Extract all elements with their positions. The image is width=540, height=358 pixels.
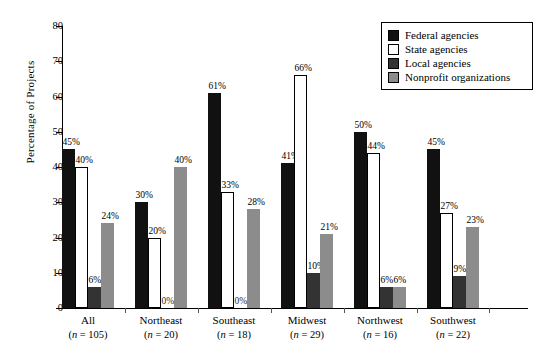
bar[interactable]: [281, 163, 294, 308]
bar[interactable]: [440, 213, 453, 308]
x-group-separator-tick: [417, 308, 418, 313]
legend: Federal agenciesState agenciesLocal agen…: [381, 22, 533, 90]
legend-item-label: Local agencies: [405, 57, 471, 69]
bar-value-label: 45%: [428, 138, 445, 148]
legend-swatch-icon: [388, 58, 399, 69]
bar[interactable]: [208, 93, 221, 308]
bar-value-label: 6%: [381, 276, 394, 286]
bar-group: 45%40%6%24%: [62, 26, 114, 308]
bar[interactable]: [380, 287, 393, 308]
bar-value-label: 66%: [295, 64, 312, 74]
x-group-separator-tick: [271, 308, 272, 313]
legend-item-label: Federal agencies: [405, 29, 479, 41]
legend-item-federal[interactable]: Federal agencies: [388, 28, 526, 42]
bar[interactable]: [466, 227, 479, 308]
bar-value-label: 20%: [149, 227, 166, 237]
y-tick: 10: [0, 268, 63, 278]
x-group-name: Northeast: [140, 314, 183, 326]
bar-value-label: 50%: [355, 121, 372, 131]
bar-value-label: 44%: [368, 142, 385, 152]
bar-value-label: 45%: [63, 138, 80, 148]
x-group-name: All: [81, 314, 95, 326]
x-group-separator-tick: [198, 308, 199, 313]
y-tick: 50: [0, 127, 63, 137]
bar-value-label: 33%: [222, 181, 239, 191]
legend-item-nonprofit[interactable]: Nonprofit organizations: [388, 70, 526, 84]
bar-value-label: 9%: [454, 265, 467, 275]
bar[interactable]: [135, 202, 148, 308]
y-tick: 60: [0, 92, 63, 102]
x-group-separator-tick: [125, 308, 126, 313]
legend-item-label: State agencies: [405, 43, 468, 55]
bar[interactable]: [294, 75, 307, 308]
bar-value-label: 61%: [209, 82, 226, 92]
bar-value-label: 24%: [102, 212, 119, 222]
y-tick: 40: [0, 162, 63, 172]
bar-value-label: 27%: [441, 202, 458, 212]
legend-item-local[interactable]: Local agencies: [388, 56, 526, 70]
bar-value-label: 28%: [248, 198, 265, 208]
bar[interactable]: [88, 287, 101, 308]
bar[interactable]: [367, 153, 380, 308]
bar-group: 41%66%10%21%: [281, 26, 333, 308]
bar[interactable]: [247, 209, 260, 308]
bar-value-label: 6%: [394, 276, 407, 286]
bar[interactable]: [221, 192, 234, 308]
x-group-count: (n = 22): [398, 328, 508, 342]
bar[interactable]: [148, 238, 161, 309]
x-axis-end-tick: [489, 308, 490, 313]
legend-swatch-icon: [388, 44, 399, 55]
bar[interactable]: [75, 167, 88, 308]
legend-item-state[interactable]: State agencies: [388, 42, 526, 56]
bar-value-label: 30%: [136, 191, 153, 201]
bar-chart: Percentage of Projects 80706050403020100…: [0, 0, 540, 358]
bar-group: 30%20%0%40%: [135, 26, 187, 308]
bar-value-label: 21%: [321, 223, 338, 233]
bar-value-label: 23%: [467, 216, 484, 226]
x-group-name: Midwest: [288, 314, 327, 326]
legend-swatch-icon: [388, 72, 399, 83]
x-group-name: Northwest: [357, 314, 403, 326]
legend-item-label: Nonprofit organizations: [405, 71, 510, 83]
bar[interactable]: [62, 149, 75, 308]
x-group-name: Southeast: [213, 314, 256, 326]
bar[interactable]: [354, 132, 367, 308]
x-group-separator-tick: [344, 308, 345, 313]
bar[interactable]: [307, 273, 320, 308]
bar[interactable]: [427, 149, 440, 308]
bar-value-label: 6%: [89, 276, 102, 286]
bar[interactable]: [393, 287, 406, 308]
legend-swatch-icon: [388, 30, 399, 41]
bar-value-label: 0%: [162, 297, 175, 307]
bar-value-label: 40%: [76, 156, 93, 166]
bar-value-label: 0%: [235, 297, 248, 307]
x-group-label: Southwest(n = 22): [398, 314, 508, 341]
bar[interactable]: [174, 167, 187, 308]
bar[interactable]: [453, 276, 466, 308]
y-tick: 0: [0, 303, 63, 313]
y-tick: 80: [0, 21, 63, 31]
bar[interactable]: [101, 223, 114, 308]
x-group-name: Southwest: [430, 314, 476, 326]
bar[interactable]: [320, 234, 333, 308]
x-axis-line: [62, 308, 528, 309]
bar-value-label: 40%: [175, 156, 192, 166]
y-tick: 20: [0, 233, 63, 243]
y-tick: 70: [0, 56, 63, 66]
bar-group: 61%33%0%28%: [208, 26, 260, 308]
y-tick: 30: [0, 197, 63, 207]
